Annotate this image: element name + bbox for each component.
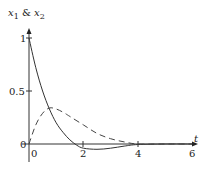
y-tick-label: 0.5 <box>9 86 25 97</box>
x-tick-label: 2 <box>80 148 86 159</box>
x-axis-label: t <box>194 133 199 144</box>
y-axis-label: x1 & x2 <box>8 7 45 21</box>
y-axis-arrow-icon <box>27 28 32 34</box>
x-tick-label: 4 <box>135 148 141 159</box>
y-tick-label: 0 <box>20 139 26 150</box>
x-tick-label: 6 <box>189 148 195 159</box>
x-tick-label: 0 <box>31 148 37 159</box>
chart: x1 & x2 0 2 4 6 t 0 0.5 1 <box>0 0 205 174</box>
y-tick-label: 1 <box>20 33 26 44</box>
series-x2-dashed-line <box>29 108 192 144</box>
series-x1-solid-line <box>29 38 192 149</box>
